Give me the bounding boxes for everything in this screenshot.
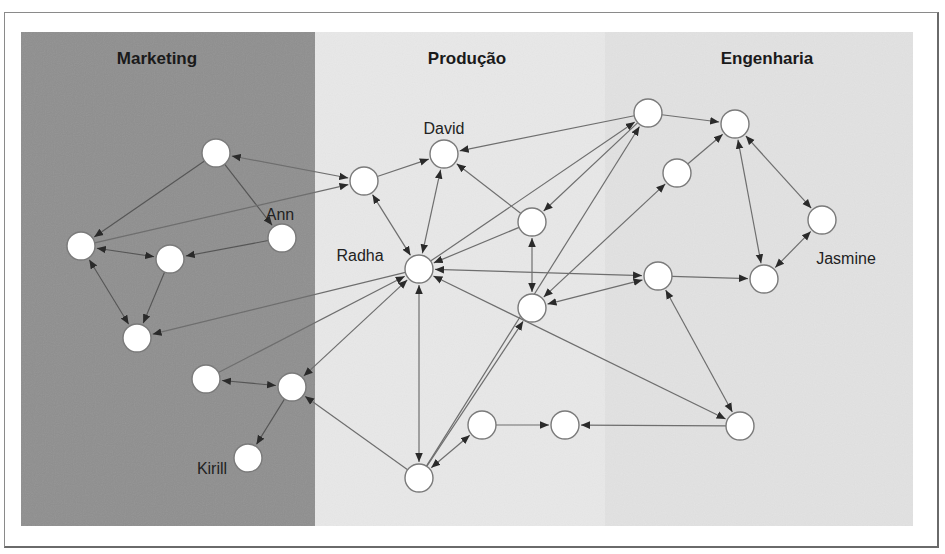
person-label-radha: Radha xyxy=(336,247,383,264)
node-e1 xyxy=(634,99,662,127)
department-label-marketing: Marketing xyxy=(117,49,197,68)
node-e3 xyxy=(663,159,691,187)
node-e5 xyxy=(644,262,672,290)
person-label-ann: Ann xyxy=(266,206,294,223)
region-marketing xyxy=(21,32,315,526)
department-label-producao: Produção xyxy=(428,49,506,68)
person-label-david: David xyxy=(424,120,465,137)
node-david xyxy=(430,140,458,168)
org-network-diagram: MarketingProduçãoEngenhariaAnnKirillDavi… xyxy=(0,0,945,554)
node-ann xyxy=(268,224,296,252)
node-p7 xyxy=(551,411,579,439)
node-p4 xyxy=(518,208,546,236)
person-label-kirill: Kirill xyxy=(197,460,227,477)
department-regions xyxy=(21,32,913,526)
node-m3 xyxy=(156,245,184,273)
node-p6 xyxy=(468,411,496,439)
node-m5 xyxy=(123,324,151,352)
node-jasmine xyxy=(750,265,778,293)
node-e2 xyxy=(721,110,749,138)
node-m2 xyxy=(67,232,95,260)
node-e4 xyxy=(808,206,836,234)
node-p1 xyxy=(350,167,378,195)
node-radha xyxy=(405,255,433,283)
node-m7 xyxy=(278,373,306,401)
node-m6 xyxy=(192,365,220,393)
node-m1 xyxy=(202,139,230,167)
node-e7 xyxy=(726,412,754,440)
department-label-engenharia: Engenharia xyxy=(721,49,814,68)
person-label-jasmine: Jasmine xyxy=(816,250,876,267)
node-p5 xyxy=(518,294,546,322)
region-producao xyxy=(315,32,605,526)
node-p8 xyxy=(405,464,433,492)
node-kirill xyxy=(234,444,262,472)
edge-e7-p7 xyxy=(581,425,726,426)
